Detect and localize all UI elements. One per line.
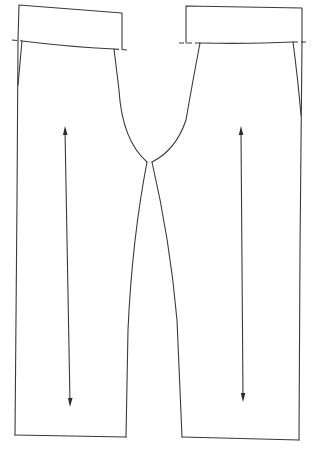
left-waistline-extension-left: [12, 40, 22, 41]
left-leg-piece: [12, 5, 147, 437]
left-grainline-arrow-icon: [63, 126, 73, 407]
right-side-dart: [293, 42, 301, 115]
pattern-svg: [0, 0, 319, 452]
left-outer-seam: [15, 40, 18, 435]
right-grainline-arrow-icon: [239, 126, 246, 402]
right-hem: [182, 437, 299, 440]
right-inner-seam: [152, 162, 182, 437]
right-waistline: [200, 42, 293, 43]
left-crotch-curve: [114, 49, 147, 162]
right-leg-piece: [152, 6, 307, 440]
right-crotch-curve: [152, 43, 200, 162]
left-waistline: [22, 41, 114, 49]
pattern-diagram: [0, 0, 319, 452]
left-side-dart: [18, 41, 22, 85]
left-inner-seam: [126, 162, 147, 437]
right-waistband: [186, 6, 302, 43]
left-hem: [15, 435, 126, 437]
left-waistline-extension-right: [114, 49, 128, 50]
